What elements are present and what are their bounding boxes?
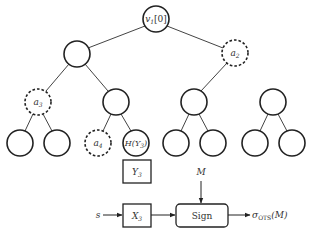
tree-edges (25, 26, 287, 131)
leaf-node-hy3: H(Y3) (123, 130, 149, 156)
level2-node-a3: a3 (25, 89, 51, 115)
ots-merkle-diagram: v1[0] a2 a3 a4 H(Y3) Y3 s X3 M (0, 0, 313, 236)
hy3-label: H(Y3) (124, 139, 147, 149)
level2-node-3 (181, 89, 207, 115)
root-label: v1[0] (145, 14, 167, 25)
y3-box: Y3 (123, 160, 151, 183)
sign-box: Sign (176, 204, 228, 227)
leaf-node-6 (200, 130, 226, 156)
level1-node-a2: a2 (222, 40, 248, 66)
output-signature-label: σOTS(M) (252, 210, 288, 221)
s-input-label: s (96, 210, 101, 220)
leaf-node-8 (279, 130, 305, 156)
root-node: v1[0] (143, 6, 169, 32)
level2-node-2 (103, 89, 129, 115)
level1-node-left (64, 41, 90, 67)
x3-box: X3 (123, 204, 151, 227)
sign-label: Sign (192, 211, 213, 221)
leaf-node-7 (242, 130, 268, 156)
level2-node-4 (260, 89, 286, 115)
leaf-node-a4: a4 (85, 130, 111, 156)
leaf-node-1 (7, 130, 33, 156)
leaf-node-5 (163, 130, 189, 156)
m-input-label: M (195, 167, 206, 177)
leaf-node-2 (44, 130, 70, 156)
